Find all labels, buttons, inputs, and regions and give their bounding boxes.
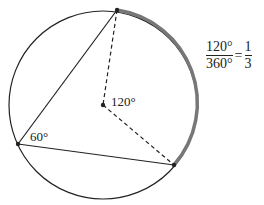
chord-top-left bbox=[18, 10, 117, 144]
radius-right bbox=[103, 105, 174, 165]
numerator: 120° bbox=[206, 39, 233, 55]
fraction-right: 1 3 bbox=[245, 39, 252, 72]
center-point bbox=[101, 103, 105, 107]
point-left bbox=[16, 142, 20, 146]
highlighted-arc bbox=[117, 10, 197, 165]
denominator: 360° bbox=[206, 56, 233, 72]
center-angle-label: 120° bbox=[111, 95, 136, 108]
radius-top bbox=[103, 10, 117, 105]
equals-sign: = bbox=[235, 48, 243, 64]
fraction-equation: 120° 360° = 1 3 bbox=[206, 39, 252, 72]
point-top bbox=[115, 8, 119, 12]
result-numerator: 1 bbox=[245, 39, 252, 55]
point-right bbox=[172, 163, 176, 167]
chord-left-right bbox=[18, 144, 174, 165]
fraction-left: 120° 360° bbox=[206, 39, 233, 72]
inscribed-angle-label: 60° bbox=[30, 130, 48, 143]
result-denominator: 3 bbox=[245, 56, 252, 72]
